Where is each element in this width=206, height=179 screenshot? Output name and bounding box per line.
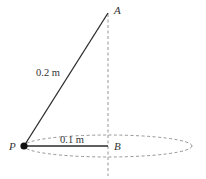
string-line — [24, 13, 108, 146]
pendulum-bob — [20, 142, 27, 149]
point-label-p: P — [8, 140, 16, 152]
string-length-label: 0.2 m — [36, 67, 60, 78]
point-label-a: A — [113, 4, 121, 16]
point-label-b: B — [114, 140, 121, 152]
conical-pendulum-diagram: A P B 0.2 m 0.1 m — [0, 0, 206, 179]
radius-label: 0.1 m — [60, 134, 84, 145]
